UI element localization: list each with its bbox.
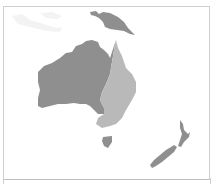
spencer-gulf [86, 108, 92, 118]
region-tasmania [102, 136, 112, 148]
region-new-zealand-north [178, 120, 190, 147]
region-papua-new-guinea [90, 11, 135, 35]
region-indonesia [12, 12, 62, 32]
region-new-zealand-south [150, 145, 177, 168]
oceania-map [0, 0, 212, 184]
